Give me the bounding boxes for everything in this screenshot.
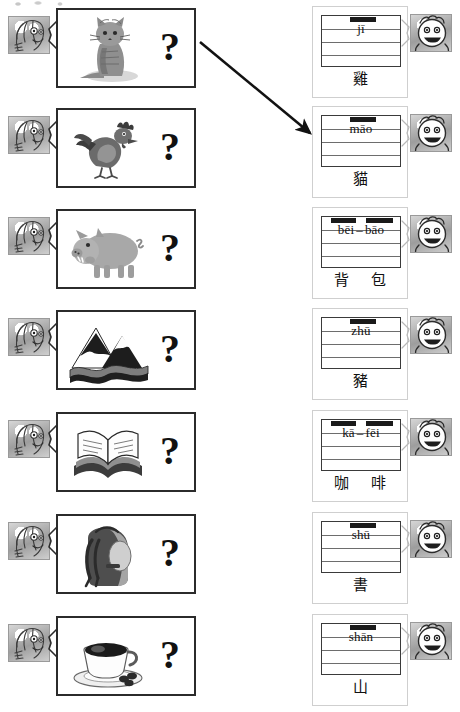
grid-line [322, 446, 400, 447]
question-mark: ? [160, 533, 180, 573]
left-speaker-bubble [8, 624, 56, 664]
picture-card-inner: ? [58, 516, 194, 592]
hanzi-character: 雞 [353, 69, 368, 89]
picture-card-inner: ? [58, 110, 194, 186]
mountain-drawing [66, 316, 152, 388]
backpack-photo [66, 520, 152, 592]
student-face-icon [8, 522, 50, 560]
hanzi-character: 背 [334, 270, 349, 290]
pinyin-layer: shān [322, 624, 400, 650]
right-speaker-bubble [410, 215, 458, 255]
student-face-icon [8, 16, 50, 54]
left-speaker-bubble [8, 420, 56, 460]
pinyin-layer: bēi–bāo [322, 217, 400, 243]
left-speaker-bubble [8, 217, 56, 257]
worksheet-page: ?jī雞 ?māo貓 [0, 0, 460, 712]
smiling-face-icon [410, 520, 452, 558]
open-book-drawing [66, 418, 152, 490]
pinyin-text: shū [322, 528, 400, 542]
pinyin-layer: shū [322, 522, 400, 548]
worksheet-row: ?jī雞 [0, 4, 460, 104]
smiling-face-icon [410, 215, 452, 253]
smiling-face-icon [410, 114, 452, 152]
question-mark: ? [160, 27, 180, 67]
pinyin-layer: zhū [322, 318, 400, 344]
question-mark: ? [160, 228, 180, 268]
hanzi-row: 貓 [313, 169, 407, 189]
cat-photo [66, 14, 152, 86]
hanzi-character: 貓 [353, 169, 368, 189]
pinyin-syllable: zhū [351, 323, 370, 338]
grid-line [322, 344, 400, 345]
left-speaker-bubble [8, 16, 56, 56]
pinyin-answer-card[interactable]: zhū豬 [312, 308, 408, 400]
worksheet-row: ?kā–fēi咖啡 [0, 408, 460, 508]
student-face-icon [8, 420, 50, 458]
picture-card[interactable]: ? [56, 514, 196, 594]
worksheet-row: ?shān山 [0, 612, 460, 712]
pinyin-answer-card[interactable]: māo貓 [312, 106, 408, 198]
hanzi-character: 咖 [334, 473, 349, 493]
pinyin-answer-card[interactable]: kā–fēi咖啡 [312, 410, 408, 502]
pinyin-grid: māo [321, 115, 401, 167]
grid-line [322, 548, 400, 549]
grid-line [322, 459, 400, 460]
smiling-face-icon [410, 316, 452, 354]
left-speaker-bubble [8, 318, 56, 358]
grid-line [322, 243, 400, 244]
hanzi-row: 書 [313, 575, 407, 595]
picture-card-inner: ? [58, 414, 194, 490]
picture-card[interactable]: ? [56, 616, 196, 696]
right-speaker-bubble [410, 622, 458, 662]
hanzi-row: 背包 [313, 270, 407, 290]
grid-line [322, 663, 400, 664]
pinyin-answer-card[interactable]: shū書 [312, 512, 408, 604]
smiling-face-icon [410, 622, 452, 660]
pinyin-answer-card[interactable]: shān山 [312, 614, 408, 706]
worksheet-row: ?bēi–bāo背包 [0, 205, 460, 305]
pinyin-syllable: bēi [338, 222, 354, 237]
pinyin-syllable: māo [350, 121, 373, 136]
question-mark: ? [160, 127, 180, 167]
picture-card[interactable]: ? [56, 310, 196, 390]
right-speaker-bubble [410, 418, 458, 458]
picture-card[interactable]: ? [56, 8, 196, 88]
hanzi-row: 山 [313, 677, 407, 697]
question-mark: ? [160, 635, 180, 675]
picture-card[interactable]: ? [56, 108, 196, 188]
grid-line [322, 256, 400, 257]
picture-card[interactable]: ? [56, 209, 196, 289]
grid-line [322, 155, 400, 156]
pinyin-text: bēi–bāo [322, 223, 400, 237]
picture-card-inner: ? [58, 211, 194, 287]
worksheet-row: ?māo貓 [0, 104, 460, 204]
hanzi-character: 啡 [371, 473, 386, 493]
picture-card[interactable]: ? [56, 412, 196, 492]
pinyin-grid: bēi–bāo [321, 216, 401, 268]
pinyin-answer-card[interactable]: jī雞 [312, 6, 408, 98]
smiling-face-icon [410, 418, 452, 456]
hanzi-row: 雞 [313, 69, 407, 89]
grid-line [322, 42, 400, 43]
right-speaker-bubble [410, 520, 458, 560]
pinyin-text: zhū [322, 324, 400, 338]
pinyin-separator: – [355, 425, 366, 440]
hanzi-row: 豬 [313, 371, 407, 391]
hanzi-row: 咖啡 [313, 473, 407, 493]
pinyin-answer-card[interactable]: bēi–bāo背包 [312, 207, 408, 299]
pinyin-grid: shān [321, 623, 401, 675]
grid-line [322, 142, 400, 143]
pinyin-syllable: shū [352, 527, 371, 542]
pig-drawing [66, 215, 152, 287]
picture-card-inner: ? [58, 312, 194, 388]
pinyin-layer: māo [322, 116, 400, 142]
pinyin-grid: kā–fēi [321, 419, 401, 471]
right-speaker-bubble [410, 316, 458, 356]
pinyin-grid: shū [321, 521, 401, 573]
grid-line [322, 55, 400, 56]
pinyin-syllable: kā [342, 425, 355, 440]
worksheet-row: ?shū書 [0, 510, 460, 610]
right-speaker-bubble [410, 114, 458, 154]
pinyin-grid: jī [321, 15, 401, 67]
worksheet-row: ?zhū豬 [0, 306, 460, 406]
